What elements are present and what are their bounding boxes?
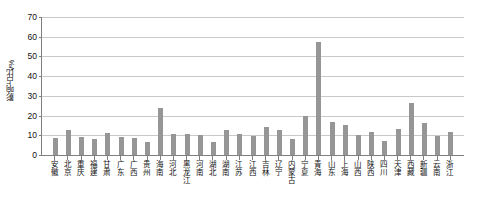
x-tick-label: 青海 [312, 161, 323, 177]
y-tick-label: 30 [28, 92, 37, 101]
y-tick-label: 40 [28, 72, 37, 81]
x-tick-label: 广东 [115, 161, 126, 177]
bar [448, 132, 453, 155]
x-tick-label: 山东 [326, 161, 337, 177]
y-tick-label: 50 [28, 52, 37, 61]
x-tick-label: 吉林 [260, 161, 271, 177]
x-tick-label: 陕西 [365, 161, 376, 177]
bar [303, 116, 308, 155]
bar [369, 132, 374, 155]
x-tick-label: 广西 [128, 161, 139, 177]
y-tick-label: 10 [28, 131, 37, 140]
x-tick-label: 江西 [247, 161, 258, 177]
bar-chart: 影响占比/% 010203040506070 安徽北京重庆福建甘肃广东广西贵州海… [0, 0, 482, 209]
bar [382, 141, 387, 155]
bar [211, 142, 216, 155]
y-tick-label: 20 [28, 111, 37, 120]
y-axis-title: 影响占比/% [4, 0, 18, 160]
bar [66, 130, 71, 155]
bar [264, 127, 269, 155]
x-tick-label: 贵州 [141, 161, 152, 177]
x-tick-label: 西藏 [405, 161, 416, 177]
bar [198, 135, 203, 155]
x-tick-label: 甘肃 [101, 161, 112, 177]
x-axis-labels: 安徽北京重庆福建甘肃广东广西贵州海南河北黑龙江河南湖北湖南江苏江西吉林辽宁内蒙古… [41, 161, 463, 209]
bar [92, 139, 97, 155]
bar [224, 130, 229, 155]
x-tick-label: 宁夏 [299, 161, 310, 177]
bar [132, 138, 137, 155]
bar [396, 129, 401, 155]
bar [79, 137, 84, 155]
bar [330, 122, 335, 155]
x-tick-label: 安徽 [49, 161, 60, 177]
x-tick-label: 山西 [352, 161, 363, 177]
x-tick-label: 黑龙江 [181, 161, 192, 186]
y-tick-label: 0 [32, 151, 37, 160]
y-tick-label: 70 [28, 13, 37, 22]
x-tick-label: 天津 [392, 161, 403, 177]
plot-area: 010203040506070 [41, 17, 464, 156]
y-tick-label: 60 [28, 32, 37, 41]
x-tick-label: 重庆 [75, 161, 86, 177]
bar [158, 108, 163, 155]
bar [316, 42, 321, 155]
bar [290, 139, 295, 155]
bar [343, 125, 348, 155]
x-tick-label: 上海 [339, 161, 350, 177]
x-tick-label: 新疆 [418, 161, 429, 177]
bar [422, 123, 427, 155]
x-tick-label: 海南 [154, 161, 165, 177]
bar [277, 130, 282, 155]
bar [251, 136, 256, 155]
x-tick-label: 河北 [167, 161, 178, 177]
x-tick-label: 江苏 [233, 161, 244, 177]
bar [171, 134, 176, 155]
x-tick-label: 湖北 [207, 161, 218, 177]
x-tick-label: 福建 [88, 161, 99, 177]
x-tick-label: 四川 [378, 161, 389, 177]
x-tick-label: 北京 [62, 161, 73, 177]
x-tick-label: 辽宁 [273, 161, 284, 177]
bar [119, 137, 124, 155]
x-tick-label: 云南 [431, 161, 442, 177]
bar [105, 133, 110, 155]
x-tick-label: 湖南 [220, 161, 231, 177]
bar [53, 138, 58, 155]
bar [185, 134, 190, 155]
x-tick-label: 内蒙古 [286, 161, 297, 186]
bar [356, 135, 361, 155]
x-tick-label: 浙江 [444, 161, 455, 177]
bar [237, 134, 242, 155]
bar [145, 142, 150, 155]
bars-layer [42, 17, 464, 155]
bar [435, 136, 440, 155]
bar [409, 103, 414, 155]
x-tick-label: 河南 [194, 161, 205, 177]
